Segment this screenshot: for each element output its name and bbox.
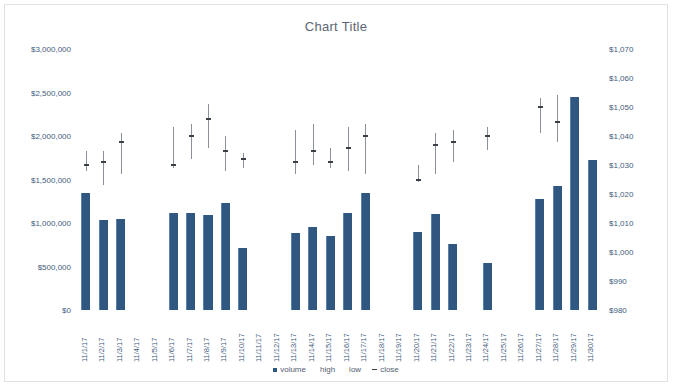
legend-label: low [349,365,361,374]
left-axis-tick: $2,500,000 [31,88,71,97]
high-low-line [243,153,244,168]
category-axis-tick: 11/3/17 [115,338,124,362]
category-axis-tick: 11/21/17 [429,333,438,362]
close-marker [555,121,560,123]
close-marker [101,161,106,163]
category-axis-tick: 11/5/17 [150,338,159,362]
close-marker [328,161,333,163]
right-axis-tick: $1,000 [609,248,633,257]
right-axis-tick: $1,030 [609,161,633,170]
category-axis-tick: 11/10/17 [237,333,246,362]
category-axis-tick: 11/30/17 [586,333,595,362]
close-marker [363,135,368,137]
high-low-close-layer [77,49,601,310]
close-marker [119,141,124,143]
high-low-line [365,124,366,173]
high-low-line [487,127,488,150]
category-axis-tick: 11/1/17 [80,338,89,362]
left-axis-tick: $2,000,000 [31,132,71,141]
category-axis-tick: 11/4/17 [132,338,141,362]
legend-label: high [320,365,335,374]
category-axis-tick: 11/26/17 [516,333,525,362]
legend-marker-dash-icon [372,369,377,370]
category-axis-tick: 11/17/17 [359,333,368,362]
right-axis-tick: $1,040 [609,132,633,141]
right-axis-tick: $1,070 [609,45,633,54]
category-axis-tick: 11/28/17 [551,333,560,362]
category-axis-tick: 11/9/17 [219,338,228,362]
close-marker [451,141,456,143]
right-axis-tick: $1,010 [609,219,633,228]
legend-label: close [380,365,399,374]
category-axis-tick: 11/18/17 [377,333,386,362]
chart-title: Chart Title [5,19,667,34]
right-axis-tick: $980 [609,306,627,315]
category-axis-tick: 11/27/17 [534,333,543,362]
close-marker [206,118,211,120]
category-axis-tick: 11/29/17 [569,333,578,362]
category-axis-tick: 11/7/17 [185,338,194,362]
close-marker [189,135,194,137]
high-low-line [557,95,558,141]
legend-marker-square-icon [273,368,277,372]
close-marker [293,161,298,163]
close-marker [223,150,228,152]
category-axis-tick: 11/14/17 [307,333,316,362]
high-low-line [191,124,192,159]
category-axis-tick: 11/16/17 [342,333,351,362]
category-axis-tick: 11/20/17 [412,333,421,362]
category-axis-tick: 11/6/17 [167,338,176,362]
left-axis-tick: $0 [62,306,71,315]
high-low-line [208,104,209,148]
close-marker [84,164,89,166]
chart-frame: Chart Title $0$500,000$1,000,000$1,500,0… [4,4,668,382]
high-low-line [225,136,226,171]
close-marker [416,179,421,181]
category-axis-tick: 11/2/17 [97,338,106,362]
category-axis-tick: 11/24/17 [481,333,490,362]
high-low-line [295,130,296,174]
high-low-line [86,151,87,171]
category-axis-tick: 11/25/17 [499,333,508,362]
right-value-axis: $980$990$1,000$1,010$1,020$1,030$1,040$1… [609,49,671,310]
category-axis-tick: 11/12/17 [272,333,281,362]
category-axis-tick: 11/11/17 [254,334,263,362]
close-marker [171,164,176,166]
category-axis-tick: 11/23/17 [464,333,473,362]
right-axis-tick: $1,060 [609,74,633,83]
high-low-line [173,127,174,168]
left-value-axis: $0$500,000$1,000,000$1,500,000$2,000,000… [9,49,71,310]
close-marker [346,147,351,149]
plot-area [77,49,601,310]
category-axis-tick: 11/15/17 [324,333,333,362]
close-marker [485,135,490,137]
category-axis: 11/1/1711/2/1711/3/1711/4/1711/5/1711/6/… [77,310,601,362]
right-axis-tick: $1,050 [609,103,633,112]
high-low-line [540,98,541,133]
high-low-line [330,148,331,168]
legend-item[interactable]: low [346,365,361,374]
high-low-line [453,130,454,162]
category-axis-tick: 11/13/17 [289,333,298,362]
left-axis-tick: $500,000 [38,262,71,271]
right-axis-tick: $990 [609,277,627,286]
chart-legend: volumehighlowclose [5,365,667,374]
high-low-line [435,133,436,174]
left-axis-tick: $3,000,000 [31,45,71,54]
left-axis-tick: $1,000,000 [31,219,71,228]
close-marker [538,106,543,108]
high-low-line [313,124,314,165]
legend-item[interactable]: high [317,365,335,374]
category-axis-tick: 11/22/17 [447,333,456,362]
high-low-line [103,151,104,186]
close-marker [241,158,246,160]
legend-item[interactable]: volume [273,365,306,374]
left-axis-tick: $1,500,000 [31,175,71,184]
right-axis-tick: $1,020 [609,190,633,199]
high-low-line [348,127,349,171]
category-axis-tick: 11/8/17 [202,338,211,362]
high-low-line [121,133,122,174]
close-marker [433,144,438,146]
legend-label: volume [280,365,306,374]
legend-item[interactable]: close [372,365,399,374]
